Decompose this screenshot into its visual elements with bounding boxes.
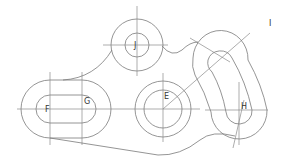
slot-fg: [17, 72, 120, 145]
drawing-canvas: J I G F E H: [0, 0, 287, 159]
label-j: J: [134, 42, 136, 50]
label-e: E: [164, 93, 169, 101]
label-f: F: [45, 106, 50, 114]
label-g: G: [84, 98, 90, 106]
curved-slot-h: [190, 30, 268, 148]
part-drawing: [0, 0, 287, 159]
circle-e: [120, 33, 250, 142]
label-i: I: [269, 20, 271, 28]
label-h: H: [241, 103, 247, 111]
